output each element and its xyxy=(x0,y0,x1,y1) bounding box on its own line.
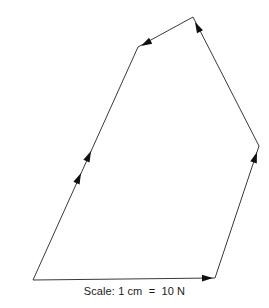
vector-polygon-canvas xyxy=(0,0,269,308)
scale-caption: Scale: 1 cm = 10 N xyxy=(0,284,269,298)
arrowhead-right-upper-edge-1-icon xyxy=(195,22,203,33)
arrowhead-bottom-edge-1-icon xyxy=(202,275,213,282)
force-polygon-figure: Scale: 1 cm = 10 N xyxy=(0,0,269,308)
arrowhead-top-edge-1-icon xyxy=(141,38,152,46)
arrowhead-left-long-edge-1-icon xyxy=(83,151,91,162)
segment-right-upper-edge xyxy=(193,17,259,146)
segment-right-lower-edge xyxy=(215,146,259,278)
arrowhead-right-lower-edge-1-icon xyxy=(250,152,257,164)
segment-bottom-edge xyxy=(33,278,215,280)
arrowhead-left-long-edge-2-icon xyxy=(73,173,81,184)
segment-left-long-edge xyxy=(33,47,138,280)
